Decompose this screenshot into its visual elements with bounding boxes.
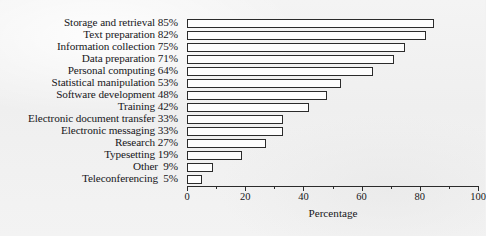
bar-row: Software development 48% — [0, 89, 485, 101]
bar-track — [187, 31, 478, 40]
bar — [187, 43, 405, 52]
bar-category-label: Information collection 75% — [57, 40, 178, 52]
x-axis-tick-label: 80 — [415, 191, 426, 203]
bar-rows: Storage and retrieval 85%Text preparatio… — [0, 17, 485, 185]
bar-category-label: Statistical manipulation 53% — [52, 76, 178, 88]
bar-row: Storage and retrieval 85% — [0, 17, 485, 29]
x-axis-minor-tick — [391, 186, 392, 189]
bar-track — [187, 55, 478, 64]
x-axis-tick-label: 100 — [470, 191, 486, 203]
x-axis-minor-tick — [216, 186, 217, 189]
x-axis-minor-tick — [333, 186, 334, 189]
bar — [187, 139, 266, 148]
bar-track — [187, 115, 478, 124]
x-axis-minor-tick — [274, 186, 275, 189]
bar — [187, 127, 283, 136]
bar — [187, 115, 283, 124]
bar-category-label: Data preparation 71% — [82, 52, 178, 64]
bar-category-label: Storage and retrieval 85% — [64, 16, 178, 28]
bar-track — [187, 67, 478, 76]
bar-track — [187, 175, 478, 184]
bar-category-label: Personal computing 64% — [68, 64, 178, 76]
bar — [187, 55, 394, 64]
x-axis-minor-tick — [449, 186, 450, 189]
bar-track — [187, 103, 478, 112]
bar — [187, 31, 426, 40]
bar — [187, 67, 373, 76]
bar — [187, 175, 202, 184]
x-axis-title: Percentage — [187, 207, 479, 219]
bar-row: Information collection 75% — [0, 41, 485, 53]
x-axis-tick-label: 0 — [184, 191, 189, 203]
bar-category-label: Teleconferencing 5% — [82, 172, 178, 184]
x-axis-tick-label: 40 — [298, 191, 309, 203]
bar-row: Electronic messaging 33% — [0, 125, 485, 137]
bar — [187, 79, 341, 88]
bar-track — [187, 91, 478, 100]
bar-row: Other 9% — [0, 161, 485, 173]
bar-track — [187, 127, 478, 136]
bar-category-label: Other 9% — [133, 160, 178, 172]
bar-row: Teleconferencing 5% — [0, 173, 485, 185]
bar-category-label: Training 42% — [118, 100, 178, 112]
bar-category-label: Research 27% — [115, 136, 178, 148]
bar-row: Typesetting 19% — [0, 149, 485, 161]
bar-track — [187, 43, 478, 52]
x-axis-tick-label: 20 — [240, 191, 251, 203]
bar — [187, 151, 242, 160]
bar-track — [187, 163, 478, 172]
bar-category-label: Text preparation 82% — [83, 28, 178, 40]
bar-row: Research 27% — [0, 137, 485, 149]
bar-track — [187, 19, 478, 28]
bar-category-label: Software development 48% — [56, 88, 178, 100]
bar-category-label: Electronic messaging 33% — [61, 124, 178, 136]
bar-track — [187, 79, 478, 88]
bar — [187, 91, 327, 100]
bar-track — [187, 139, 478, 148]
bar — [187, 19, 434, 28]
bar-track — [187, 151, 478, 160]
bar-category-label: Electronic document transfer 33% — [28, 112, 178, 124]
bar — [187, 103, 309, 112]
bar — [187, 163, 213, 172]
bar-category-label: Typesetting 19% — [104, 148, 178, 160]
x-axis-tick-label: 60 — [356, 191, 367, 203]
